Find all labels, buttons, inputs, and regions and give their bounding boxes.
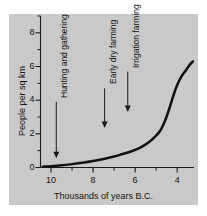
annotation-label-0: Hunting and gathering [60, 14, 69, 98]
annotation-label-1: Early dry farming [109, 20, 118, 84]
x-tick-label-8: 8 [83, 176, 103, 185]
x-axis-title: Thousands of years B.C. [0, 192, 207, 201]
x-tick-label-4: 4 [167, 176, 187, 185]
x-tick-label-10: 10 [41, 176, 61, 185]
annotation-label-2: Irrigation farming [132, 4, 141, 68]
annotation-arrow-head-2 [125, 105, 131, 112]
population-density-chart: 0246810864People per sq kmHunting and ga… [0, 0, 207, 216]
y-tick-label-0: 0 [25, 163, 35, 172]
y-tick-label-8: 8 [25, 28, 35, 37]
annotation-arrow-head-1 [102, 121, 108, 128]
annotation-arrow-head-0 [53, 152, 59, 159]
x-tick-label-6: 6 [125, 176, 145, 185]
y-axis-title: People per sq km [18, 66, 27, 136]
